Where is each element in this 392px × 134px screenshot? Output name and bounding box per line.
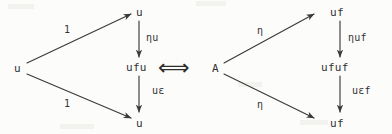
node-left-top: u — [136, 7, 143, 18]
right-bottom-diagonal-arrow — [224, 74, 314, 118]
label-left-lower-vertical: uε — [152, 86, 164, 96]
left-top-diagonal-arrow — [27, 14, 131, 63]
node-right-middle: ufuf — [321, 62, 349, 73]
label-left-bottom-diagonal: 1 — [64, 99, 70, 109]
label-right-upper-vertical: ηuf — [348, 33, 367, 43]
node-right-top: uf — [330, 7, 344, 18]
node-right-bottom: uf — [330, 118, 344, 129]
node-left-source: u — [14, 63, 21, 74]
equivalence-icon: ⟺ — [158, 57, 190, 79]
node-left-bottom: u — [136, 118, 143, 129]
left-bottom-diagonal-arrow — [27, 74, 131, 118]
label-right-lower-vertical: uεf — [352, 86, 371, 96]
right-top-diagonal-arrow — [224, 14, 314, 63]
label-left-top-diagonal: 1 — [64, 25, 70, 35]
label-right-top-diagonal: η — [257, 26, 263, 36]
label-left-upper-vertical: ηu — [146, 33, 158, 43]
label-right-bottom-diagonal: η — [257, 100, 263, 110]
node-left-middle: ufu — [126, 62, 147, 73]
node-right-source: A — [212, 63, 219, 74]
commutative-diagram-figure: u u ufu u 1 1 ηu uε ⟺ A uf ufuf uf η η η… — [0, 0, 392, 134]
